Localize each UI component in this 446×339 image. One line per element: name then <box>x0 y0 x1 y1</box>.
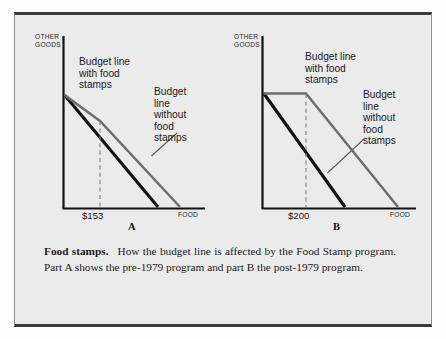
panel-a-tick-label: $153 <box>82 210 103 221</box>
panel-b-x-axis-label: FOOD <box>390 211 410 219</box>
figure-frame <box>14 12 432 327</box>
panel-a-y-axis-label: OTHER GOODS <box>35 33 61 49</box>
panel-a-x-axis-label: FOOD <box>178 211 198 219</box>
panel-b-annotation-with-food-stamps: Budget line with food stamps <box>305 51 356 86</box>
figure-caption: Food stamps.How the budget line is affec… <box>44 244 396 275</box>
panel-b-y-axis-label: OTHER GOODS <box>234 33 260 49</box>
figure-root: OTHER GOODS Budget line with food stamps… <box>0 0 446 339</box>
panel-a-annotation-without-food-stamps: Budget line without food stamps <box>154 86 187 144</box>
panel-a-annotation-with-food-stamps: Budget line with food stamps <box>79 56 130 91</box>
panel-b-letter: B <box>333 221 340 232</box>
caption-title: Food stamps. <box>44 245 109 257</box>
panel-b-tick-label: $200 <box>288 210 309 221</box>
panel-b-annotation-without-food-stamps: Budget line without food stamps <box>363 89 396 147</box>
panel-a-letter: A <box>128 221 136 232</box>
